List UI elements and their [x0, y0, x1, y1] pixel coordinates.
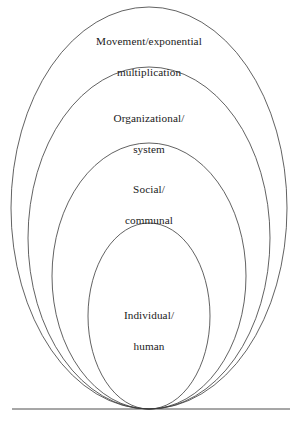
diagram-canvas — [0, 0, 298, 423]
diagram-background — [0, 0, 298, 423]
nested-ellipses-diagram: Movement/exponential multiplication Orga… — [0, 0, 298, 423]
